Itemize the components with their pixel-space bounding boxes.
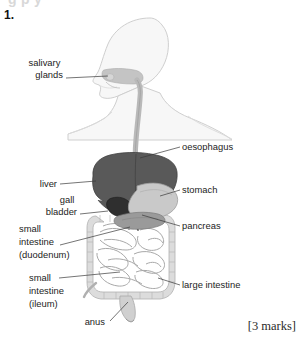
label-oesophagus: oesophagus (182, 141, 233, 152)
label-liver-line-0: liver (40, 178, 57, 189)
label-salivary-glands-line-1: glands (35, 69, 63, 80)
head-neck-torso-silhouette (68, 18, 232, 140)
label-salivary-glands: salivary glands (29, 57, 64, 80)
label-ileum-line-2: (ileum) (29, 298, 58, 309)
label-oesophagus-line-0: oesophagus (182, 141, 233, 152)
question-page: g p y 1. (0, 0, 300, 340)
leader-duodenum (60, 227, 130, 245)
label-liver: liver (40, 178, 57, 189)
pancreas-shape (114, 212, 165, 229)
rectum-anus (120, 296, 136, 322)
label-anus: anus (85, 316, 106, 327)
label-duodenum-line-0: small (19, 223, 41, 234)
label-ileum-line-1: intestine (29, 285, 64, 296)
digestive-system-diagram: salivary glands oesophagus liver stomach… (0, 0, 300, 340)
label-gall-bladder-line-1: bladder (46, 206, 77, 217)
marks-allocation: [3 marks] (248, 319, 296, 334)
label-salivary-glands-line-0: salivary (29, 57, 61, 68)
label-pancreas: pancreas (182, 220, 221, 231)
label-stomach: stomach (182, 184, 217, 195)
leader-gall-bladder (80, 211, 108, 214)
label-stomach-line-0: stomach (182, 184, 217, 195)
label-pancreas-line-0: pancreas (182, 220, 221, 231)
label-large-intestine: large intestine (182, 279, 240, 290)
leader-liver (60, 181, 96, 184)
label-large-intestine-line-0: large intestine (182, 279, 240, 290)
label-duodenum-line-2: (duodenum) (19, 249, 70, 260)
label-gall-bladder-line-0: gall (60, 194, 75, 205)
small-intestine-coils (97, 224, 165, 289)
label-small-intestine-duodenum: small intestine (duodenum) (19, 223, 70, 260)
label-gall-bladder: gall bladder (46, 194, 77, 217)
label-anus-line-0: anus (85, 316, 106, 327)
label-ileum-line-0: small (29, 272, 51, 283)
label-duodenum-line-1: intestine (19, 236, 54, 247)
